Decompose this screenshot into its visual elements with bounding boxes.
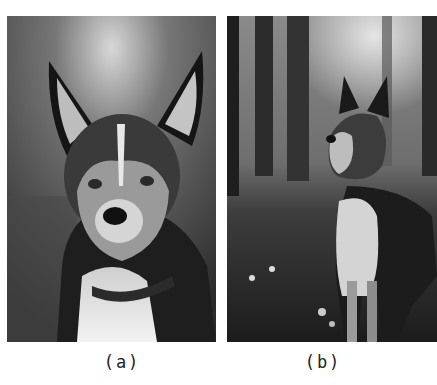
panel-b-caption: (b) (283, 352, 363, 372)
panel-a-caption: (a) (82, 352, 162, 372)
image-panel-a (7, 16, 216, 342)
dog-portrait-image (7, 16, 216, 342)
dog-forest-image (227, 16, 437, 342)
image-panel-b (227, 16, 437, 342)
